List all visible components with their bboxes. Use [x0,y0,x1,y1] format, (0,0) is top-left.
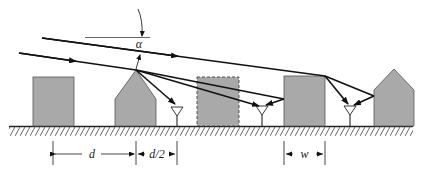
reflected-ray [354,96,374,105]
building-1 [33,77,74,126]
propagation-diagram: α d d/2 w [0,0,442,171]
dimension-label-half-d: d/2 [149,147,164,161]
reflected-ray [266,99,284,105]
antenna-1 [171,107,183,126]
angle-arrow-bottom [136,55,140,69]
angle-label: α [136,37,143,51]
antenna-icon [344,106,356,115]
building-4 [284,76,325,126]
angle-indicator: α [85,9,150,69]
building-2 [115,70,156,126]
buildings [33,69,414,126]
antenna-icon [256,106,268,115]
building-3-dashed [197,77,239,126]
antenna-2 [256,106,268,126]
ground [9,127,413,137]
antenna-3 [344,106,356,126]
dimension-label-w: w [300,147,308,161]
ground-hatching [9,127,413,136]
building-5 [374,69,414,126]
antenna-icon [171,107,183,116]
angle-arrow-top [138,9,142,36]
dimension-label-d: d [89,147,96,161]
